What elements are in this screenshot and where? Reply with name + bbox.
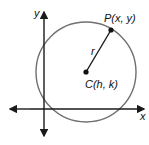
point-p-label: P(x, y) — [104, 12, 136, 24]
circle-diagram: y x P(x, y) r C(h, k) — [0, 0, 149, 145]
radius-segment — [86, 30, 111, 72]
point-p — [108, 27, 113, 32]
center-label: C(h, k) — [85, 78, 118, 90]
center-point — [83, 69, 88, 74]
x-axis-label: x — [139, 110, 146, 122]
y-axis-label: y — [33, 7, 41, 19]
